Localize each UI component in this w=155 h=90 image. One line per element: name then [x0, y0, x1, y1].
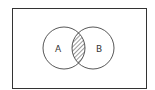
set-b-label: B [96, 44, 102, 54]
venn-diagram: A B [0, 0, 155, 90]
set-a-label: A [55, 44, 62, 54]
